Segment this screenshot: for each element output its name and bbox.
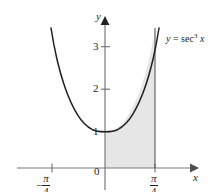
equation-variable: x: [200, 33, 204, 44]
equation-operator: =: [173, 33, 179, 44]
y-axis-label: y: [96, 11, 101, 22]
fraction-denominator: 4: [42, 186, 50, 192]
fraction-numerator: π: [150, 173, 158, 186]
shaded-area-region: [105, 28, 155, 168]
x-tick-label-pi-over-4: π4: [150, 173, 158, 192]
fraction-pi-over-4: π4: [42, 173, 50, 192]
x-axis-label: x: [193, 172, 198, 183]
fraction-denominator: 4: [150, 186, 158, 192]
equation-exponent: 3: [194, 32, 198, 40]
fraction-numerator: π: [42, 173, 50, 186]
origin-label: 0: [94, 166, 100, 177]
y-tick-label-3: 3: [93, 41, 99, 52]
x-tick-label-neg-pi-over-4: −π4: [36, 173, 50, 192]
plot-canvas: [0, 0, 217, 192]
y-tick-label-1: 1: [93, 126, 99, 137]
equation-function: sec: [181, 33, 194, 44]
equation-lhs: y: [166, 33, 170, 44]
y-tick-label-2: 2: [93, 83, 99, 94]
fraction-pi-over-4: π4: [150, 173, 158, 192]
y-axis-arrow-icon: [101, 16, 110, 25]
curve-equation-label: y = sec3 x: [166, 33, 204, 44]
figure-sec-cubed-plot: y x 0 1 2 3 −π4 π4 y = sec3 x: [0, 0, 217, 192]
